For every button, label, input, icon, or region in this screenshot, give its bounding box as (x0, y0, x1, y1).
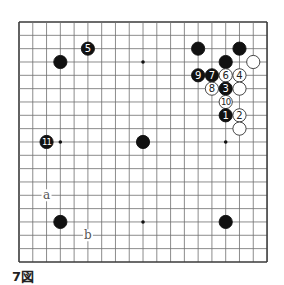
white-stone-8: 8 (205, 82, 218, 95)
black-stone (233, 42, 246, 55)
black-stone (192, 42, 205, 55)
white-stone-6: 6 (219, 69, 232, 82)
move-number: 11 (42, 137, 52, 147)
move-number: 4 (236, 70, 242, 81)
black-stone-1: 1 (219, 109, 232, 122)
star-point (141, 220, 145, 224)
marker-b: b (84, 228, 92, 242)
move-number: 8 (209, 83, 215, 94)
move-number: 10 (221, 97, 231, 107)
white-stone-2: 2 (233, 109, 246, 122)
go-board: ab 5976483101211 (0, 0, 284, 285)
white-stone-4: 4 (233, 69, 246, 82)
star-point (59, 140, 63, 144)
black-stone-3: 3 (219, 82, 232, 95)
white-stone (233, 82, 246, 95)
diagram-caption: 7図 (12, 266, 34, 285)
board-markers: ab (42, 188, 93, 242)
black-stone-7: 7 (205, 69, 218, 82)
black-stone (136, 135, 149, 148)
star-point (141, 60, 145, 64)
move-number: 5 (85, 43, 91, 54)
black-stone-9: 9 (192, 69, 205, 82)
white-stone (233, 122, 246, 135)
black-stone-5: 5 (81, 42, 94, 55)
stones-layer: 5976483101211 (40, 42, 260, 228)
move-number: 3 (223, 83, 229, 94)
black-stone (219, 215, 232, 228)
black-stone (54, 55, 67, 68)
white-stone-10: 10 (219, 95, 232, 108)
marker-a: a (43, 188, 50, 202)
white-stone (247, 55, 260, 68)
star-point (224, 140, 228, 144)
move-number: 1 (223, 110, 229, 121)
black-stone (219, 55, 232, 68)
move-number: 2 (236, 110, 242, 121)
move-number: 7 (209, 70, 215, 81)
black-stone (54, 215, 67, 228)
move-number: 6 (223, 70, 229, 81)
black-stone-11: 11 (40, 135, 53, 148)
move-number: 9 (195, 70, 201, 81)
